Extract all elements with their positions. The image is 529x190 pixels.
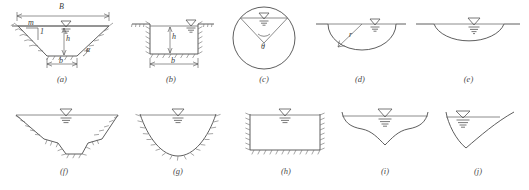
caption-f: (f)	[6, 166, 122, 176]
caption-j: (j)	[430, 166, 526, 176]
caption-h: (h)	[234, 166, 338, 176]
label-depth-h: h	[66, 35, 70, 43]
angle-arc-theta	[258, 34, 270, 36]
channel-outline	[416, 24, 520, 41]
water-level-symbol	[456, 111, 470, 127]
water-level-symbol	[172, 109, 184, 123]
label-angle-theta: θ	[261, 43, 265, 51]
panel-c: θ	[222, 2, 306, 72]
panel-d: r	[308, 2, 412, 72]
label-bottom-width-b: b	[59, 57, 63, 65]
caption-c: (c)	[222, 74, 306, 84]
lining-hatching	[245, 113, 324, 154]
panel-h	[234, 98, 338, 164]
panel-b: h b	[122, 2, 220, 72]
caption-g: (g)	[126, 166, 230, 176]
channel-outline	[316, 24, 406, 50]
water-level-symbol	[370, 19, 380, 31]
label-radius-r: r	[349, 31, 352, 39]
wall-hatching-left	[132, 21, 151, 54]
label-top-width-B: B	[59, 3, 64, 11]
label-bottom-width-b: b	[171, 57, 175, 65]
caption-b: (b)	[122, 74, 220, 84]
label-angle-alpha: α	[86, 46, 90, 54]
caption-i: (i)	[336, 166, 434, 176]
label-slope-m: m	[28, 19, 34, 27]
panel-i	[336, 98, 434, 164]
wall-hatching-right	[198, 21, 212, 54]
channel-cross-section-figure: B b h m 1 α (a)	[0, 0, 529, 190]
water-level-symbol	[279, 109, 291, 123]
label-depth-h: h	[172, 33, 176, 41]
water-level-symbol	[468, 18, 480, 34]
caption-a: (a)	[4, 74, 120, 84]
water-level-symbol	[378, 109, 392, 126]
panel-e	[412, 2, 525, 72]
channel-outline	[16, 115, 118, 154]
panel-a: B b h m 1 α	[4, 2, 120, 72]
conduit-circle	[233, 7, 295, 69]
side-slope-triangle	[26, 28, 38, 40]
bank-hatching	[136, 114, 221, 160]
panel-j	[430, 98, 526, 164]
caption-d: (d)	[308, 74, 412, 84]
label-slope-1: 1	[40, 28, 44, 36]
panel-g	[126, 98, 230, 164]
panel-f	[6, 98, 122, 164]
channel-outline	[250, 114, 320, 150]
central-angle-rays	[241, 18, 288, 43]
water-level-symbol	[259, 13, 269, 25]
channel-outline	[446, 112, 514, 148]
caption-e: (e)	[412, 74, 525, 84]
water-level-symbol	[60, 109, 72, 123]
